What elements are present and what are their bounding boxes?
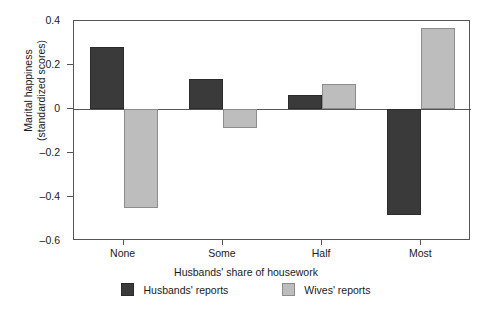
x-axis-tick-label-none: None — [83, 247, 163, 259]
bar-chart-figure: Marital happiness (standardized scores) … — [0, 0, 492, 311]
bar-some-wives — [223, 109, 257, 128]
x-axis-tick-label-most: Most — [380, 247, 460, 259]
chart-legend: Husbands' reports Wives' reports — [0, 283, 492, 296]
y-axis-tick-label: 0.4 — [18, 15, 60, 25]
bar-some-husbands — [189, 79, 223, 109]
y-axis-title-line-1: Marital happiness — [22, 0, 35, 191]
bar-half-wives — [322, 84, 356, 109]
x-axis-tick-label-some: Some — [182, 247, 262, 259]
legend-label-wives: Wives' reports — [304, 284, 370, 296]
bar-most-wives — [421, 28, 455, 109]
x-axis-tick-mark — [420, 240, 421, 245]
bar-none-husbands — [90, 47, 124, 109]
y-axis-tick-label: –0.6 — [18, 235, 60, 245]
y-axis-title-line-2: (standardized scores) — [34, 0, 47, 191]
light-square-swatch-icon — [282, 283, 295, 296]
plot-area — [73, 20, 470, 240]
legend-item-husbands: Husbands' reports — [121, 283, 228, 296]
legend-item-wives: Wives' reports — [282, 283, 370, 296]
y-axis-tick-label: –0.4 — [18, 191, 60, 201]
y-axis-tick-label: 0 — [18, 103, 60, 113]
dark-square-swatch-icon — [121, 283, 134, 296]
x-axis-tick-label-half: Half — [281, 247, 361, 259]
legend-label-husbands: Husbands' reports — [143, 284, 228, 296]
x-axis-tick-mark — [321, 240, 322, 245]
x-axis-tick-mark — [222, 240, 223, 245]
bar-none-wives — [124, 109, 158, 208]
y-axis-title: Marital happiness (standardized scores) — [22, 0, 47, 191]
x-axis-title: Husbands' share of housework — [0, 266, 492, 278]
bar-most-husbands — [387, 109, 421, 215]
x-axis-tick-mark — [123, 240, 124, 245]
y-axis-tick-label: –0.2 — [18, 147, 60, 157]
bar-half-husbands — [288, 95, 322, 109]
y-axis-tick-label: 0.2 — [18, 59, 60, 69]
